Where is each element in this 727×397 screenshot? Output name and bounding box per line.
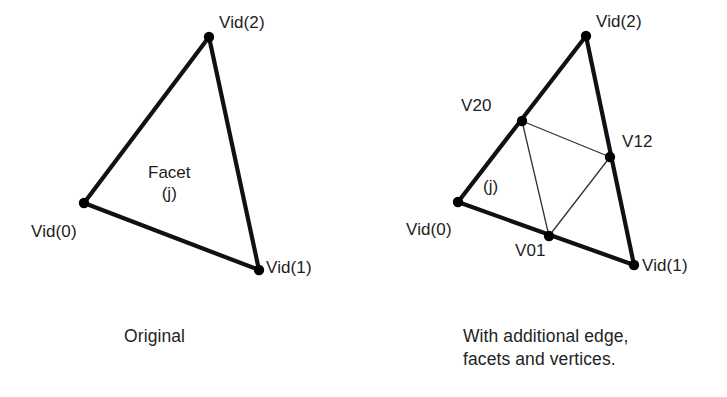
vertex-label-vid0-subdivided: Vid(0) — [406, 220, 452, 240]
edge-vid0-vid1 — [84, 203, 259, 270]
vertex-dot-vid1 — [629, 260, 639, 270]
vertex-label-v12: V12 — [622, 132, 653, 152]
vertex-dot-v01 — [544, 231, 554, 241]
edge-vid1-vid2 — [209, 37, 259, 270]
subdivided-inner-edges — [522, 121, 610, 236]
inner-edge-v12-v01 — [549, 157, 610, 236]
vertex-dot-vid2 — [204, 32, 214, 42]
vertex-dot-vid0 — [453, 197, 463, 207]
subdivided-outer-edges — [458, 36, 634, 265]
vertex-dot-v12 — [605, 152, 615, 162]
vertex-dot-vid0 — [79, 198, 89, 208]
vertex-label-v01: V01 — [515, 241, 546, 261]
vertex-label-vid1-subdivided: Vid(1) — [642, 256, 688, 276]
vertex-dot-v20 — [517, 116, 527, 126]
panel-original — [79, 32, 264, 275]
original-outer-edges — [84, 37, 259, 270]
caption-original: Original — [124, 325, 185, 348]
vertex-dot-vid1 — [254, 265, 264, 275]
panel-subdivided — [453, 31, 639, 270]
facet-label-original: Facet (j) — [148, 162, 191, 205]
vertex-label-vid2-subdivided: Vid(2) — [596, 12, 642, 32]
inner-edge-v20-v12 — [522, 121, 610, 157]
inner-edge-v01-v20 — [522, 121, 549, 236]
facet-label-subdivided: (j) — [483, 176, 498, 197]
vertex-label-v20: V20 — [461, 96, 492, 116]
caption-subdivided: With additional edge, facets and vertice… — [463, 325, 629, 371]
vertex-label-vid2-original: Vid(2) — [219, 13, 265, 33]
vertex-label-vid1-original: Vid(1) — [266, 258, 312, 278]
vertex-dot-vid2 — [581, 31, 591, 41]
vertex-label-vid0-original: Vid(0) — [31, 222, 77, 242]
